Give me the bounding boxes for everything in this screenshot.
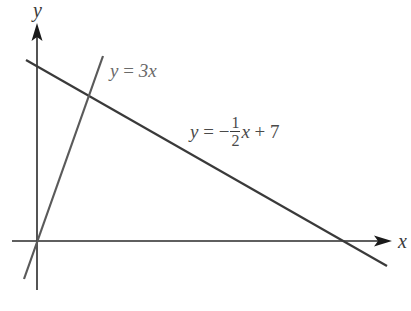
- eq-a-rhs: 3x: [139, 60, 157, 81]
- line-y-equals-neg-half-x-plus-7: [26, 60, 387, 266]
- equation-label-line-a: y = 3x: [110, 61, 157, 80]
- eq-a-equals: =: [118, 60, 138, 81]
- eq-b-minus: −: [219, 121, 230, 142]
- line-y-equals-3x: [24, 56, 103, 279]
- y-axis-label: y: [33, 0, 42, 20]
- eq-b-denominator: 2: [230, 132, 240, 149]
- eq-b-numerator: 1: [230, 114, 240, 132]
- eq-b-equals: =: [198, 121, 218, 142]
- coordinate-graph: [0, 0, 411, 311]
- equation-label-line-b: y = −12x + 7: [190, 114, 280, 149]
- x-axis-label: x: [398, 231, 407, 251]
- eq-b-fraction: 12: [230, 114, 240, 149]
- eq-b-var: x: [241, 121, 249, 142]
- eq-b-rest: + 7: [250, 121, 280, 142]
